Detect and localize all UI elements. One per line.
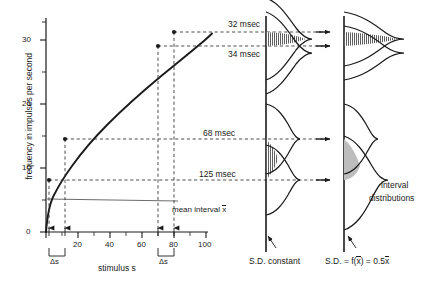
caption-sd-proportional: S.D. = f(x) = 0.5x	[325, 257, 389, 266]
delta-s-label-low: Δs	[50, 258, 59, 266]
middle-panel-leader-arrows	[316, 32, 330, 180]
label-68-msec: 68 msec	[203, 129, 235, 138]
label-32-msec: 32 msec	[228, 20, 260, 29]
sd-proportional-overlap-top	[344, 32, 398, 46]
y-tick-20: 20	[22, 100, 31, 108]
x-tick-40: 40	[105, 241, 114, 249]
label-34-msec: 34 msec	[228, 50, 260, 59]
x-tick-60: 60	[137, 241, 146, 249]
sd-constant-overlap-top	[266, 32, 306, 46]
interval-distributions-line2: distributions	[369, 194, 414, 203]
x-axis-title: stimulus s	[98, 264, 136, 273]
interval-distributions-line1: interval	[381, 181, 408, 190]
stimulus-frequency-figure	[0, 0, 429, 287]
y-tick-30: 30	[22, 36, 31, 44]
panel-sd-proportional	[344, 12, 404, 252]
caption-mid: ) = 0.5	[361, 256, 385, 266]
sd-constant-bell-34msec	[266, 12, 312, 94]
caption-xbar-2: x	[385, 257, 389, 266]
sd-proportional-caption-pointer	[348, 236, 356, 248]
x-tick-80: 80	[169, 241, 178, 249]
y-tick-10: 10	[22, 164, 31, 172]
panel-sd-constant	[266, 0, 312, 252]
right-panel-leader-arrows	[316, 32, 330, 180]
sd-constant-caption-pointer	[268, 236, 276, 248]
delta-s-brackets	[49, 248, 174, 256]
mean-interval-label: mean interval x	[172, 206, 226, 214]
x-tick-20: 20	[73, 241, 82, 249]
figure-container: frequency in impulses per second 0 10 20…	[0, 0, 429, 287]
caption-xbar-1: x	[356, 257, 360, 266]
stimulus-response-curve	[46, 34, 212, 233]
caption-prefix: S.D. = f(	[325, 256, 356, 266]
y-axis-title: frequency in impulses per second	[25, 31, 34, 201]
caption-sd-constant: S.D. constant	[249, 257, 300, 266]
label-125-msec: 125 msec	[199, 170, 236, 179]
x-tick-100: 100	[198, 241, 211, 249]
mean-interval-xbar: x	[222, 206, 226, 214]
delta-s-label-high: Δs	[159, 258, 168, 266]
y-tick-0: 0	[26, 228, 30, 236]
mean-interval-text: mean interval	[172, 205, 222, 214]
curve-marked-points	[47, 30, 176, 182]
